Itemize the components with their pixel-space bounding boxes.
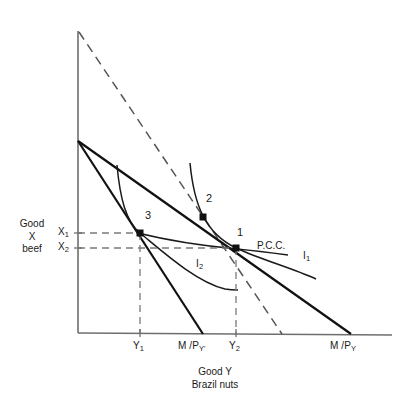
y-tick-label-x2-sub: 2	[65, 245, 69, 254]
budget-intercept-original-sub: Y	[351, 344, 356, 353]
y-axis-caption-line-2: X	[8, 231, 56, 244]
hypothetical-budget-line-dashed	[79, 32, 282, 334]
x-axis-caption-line-2: Brazil nuts	[165, 379, 265, 392]
indifference-curve-i2	[117, 165, 238, 290]
i2-label-sub: 2	[199, 262, 203, 271]
indifference-curve-i2-label: I2	[196, 258, 203, 270]
x-tick-label-y1: Y1	[133, 340, 144, 352]
y-tick-label-x2: X2	[58, 241, 69, 253]
y-tick-label-x2-base: X	[58, 241, 65, 252]
data-point-marker-2	[200, 214, 207, 221]
data-point-marker-3	[137, 230, 144, 237]
pcc-label: P.C.C.	[257, 240, 285, 251]
y-tick-label-x1-base: X	[58, 226, 65, 237]
x-tick-label-y2: Y2	[229, 340, 240, 352]
budget-line-original	[78, 141, 351, 334]
indifference-curve-i1-label: I1	[303, 250, 310, 262]
budget-intercept-original-base: M /P	[330, 340, 351, 351]
x-tick-label-y2-base: Y	[229, 340, 236, 351]
x-axis-caption-line-1: Good Y	[165, 366, 265, 379]
point-label-1: 1	[237, 226, 243, 238]
x-tick-label-y1-sub: 1	[140, 344, 144, 353]
y-axis-caption-line-1: Good	[8, 218, 56, 231]
budget-intercept-new-sub: Y'	[199, 344, 206, 353]
budget-intercept-new-base: M /P	[178, 340, 199, 351]
x-axis-caption: Good Y Brazil nuts	[165, 366, 265, 391]
x-tick-label-y1-base: Y	[133, 340, 140, 351]
y-axis-caption-line-3: beef	[8, 243, 56, 256]
figure-root: Good X beef X1 X2 Y1 Y2 M /PY' M /PY P.C…	[0, 0, 410, 419]
i1-label-sub: 1	[306, 254, 310, 263]
y-tick-label-x1-sub: 1	[65, 230, 69, 239]
budget-intercept-label-new: M /PY'	[178, 340, 206, 352]
budget-intercept-label-original: M /PY	[330, 340, 356, 352]
data-point-marker-1	[233, 245, 240, 252]
point-label-2: 2	[206, 192, 212, 204]
price-consumption-curve-chart	[0, 0, 410, 419]
y-axis-caption: Good X beef	[8, 218, 56, 256]
x-axis-line	[78, 333, 392, 335]
indifference-curve-i1	[190, 163, 316, 279]
y-tick-label-x1: X1	[58, 226, 69, 238]
x-tick-label-y2-sub: 2	[236, 344, 240, 353]
point-label-3: 3	[145, 209, 151, 221]
